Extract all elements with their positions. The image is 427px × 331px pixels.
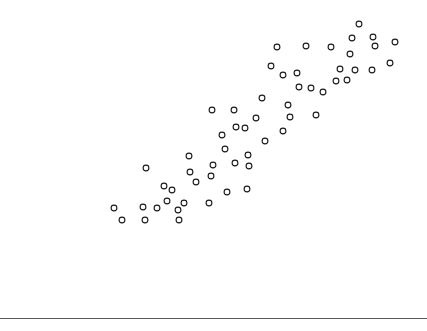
scatter-point [308,85,314,91]
scatter-point [296,84,302,90]
scatter-point [143,165,149,171]
scatter-point [169,187,175,193]
scatter-point [111,205,117,211]
scatter-point [347,51,353,57]
scatter-point [246,163,252,169]
scatter-point [176,217,182,223]
scatter-point [209,107,215,113]
scatter-point [313,112,319,118]
scatter-point [208,173,214,179]
scatter-point [320,89,326,95]
scatter-point [119,217,125,223]
scatter-point [280,128,286,134]
scatter-point [187,169,193,175]
scatter-point [285,102,291,108]
scatter-point [161,183,167,189]
scatter-point [369,67,375,73]
scatter-point [356,21,362,27]
scatter-point [181,200,187,206]
plot-area [0,0,427,331]
scatter-point [370,34,376,40]
scatter-point [175,207,181,213]
scatter-point [206,200,212,206]
scatter-point [154,205,160,211]
scatter-point [210,162,216,168]
scatter-point [280,72,286,78]
scatter-point [219,132,225,138]
scatter-point [232,160,238,166]
scatter-point [333,78,339,84]
scatter-point [142,217,148,223]
scatter-point [287,114,293,120]
scatter-point [231,107,237,113]
scatter-point [140,204,146,210]
scatter-point [268,63,274,69]
scatter-point [294,70,300,76]
scatter-point [244,186,250,192]
scatter-point [344,77,350,83]
scatter-point [274,44,280,50]
scatter-point [245,152,251,158]
scatter-point [186,153,192,159]
scatter-point [328,44,334,50]
scatter-point [259,95,265,101]
scatter-point [164,198,170,204]
scatter-point [253,115,259,121]
scatter-point [352,67,358,73]
scatter-point [387,60,393,66]
scatter-point [233,124,239,130]
bottom-axis-rule [0,318,427,319]
scatter-point [349,35,355,41]
scatter-point [262,138,268,144]
scatter-point [337,66,343,72]
scatter-point [303,43,309,49]
scatter-point [222,146,228,152]
scatter-series [0,0,427,331]
scatter-point [242,125,248,131]
scatter-point [372,43,378,49]
scatter-point [193,179,199,185]
scatter-point [224,189,230,195]
scatter-plot-figure [0,0,427,331]
scatter-point [392,39,398,45]
